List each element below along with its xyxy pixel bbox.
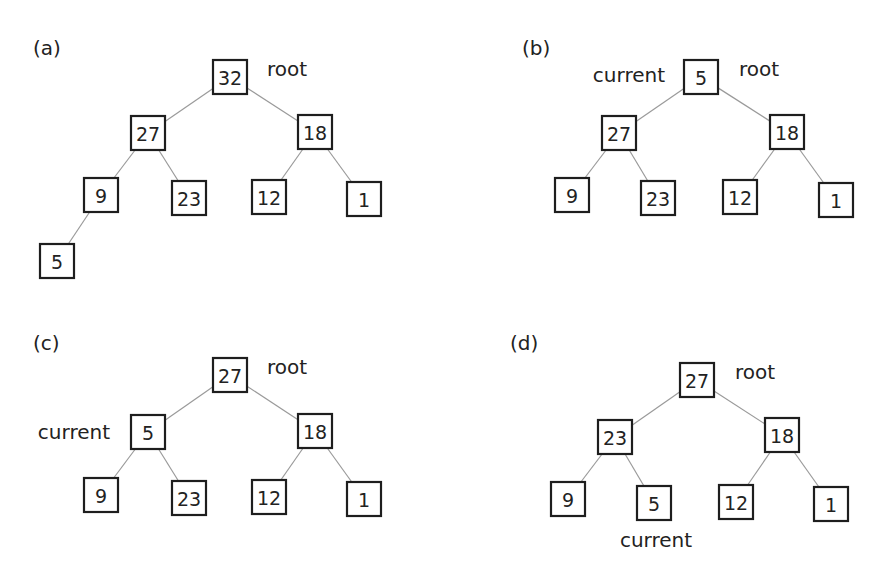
node-value: 12: [724, 492, 748, 514]
tree-node: 23: [172, 481, 206, 515]
root-label: root: [739, 57, 779, 81]
node-value: 18: [303, 421, 327, 443]
node-value: 27: [685, 370, 709, 392]
tree-edge: [327, 149, 351, 182]
node-value: 9: [566, 185, 578, 207]
tree-edge: [281, 448, 303, 480]
node-value: 12: [257, 487, 281, 509]
node-value: 5: [142, 422, 154, 444]
tree-node: 5: [40, 244, 74, 278]
root-label: root: [267, 355, 307, 379]
panel-b: (b)52718923121currentroot: [522, 36, 853, 217]
tree-node: 18: [298, 115, 332, 149]
tree-node: 18: [765, 418, 799, 452]
tree-edge: [629, 150, 648, 181]
panel-c: (c)27518923121rootcurrent: [33, 331, 381, 516]
tree-edge: [114, 150, 135, 178]
tree-node: 1: [347, 482, 381, 516]
node-value: 5: [695, 67, 707, 89]
node-value: 27: [607, 123, 631, 145]
panel-label: (a): [33, 36, 61, 60]
tree-edge: [585, 150, 606, 178]
node-value: 1: [825, 494, 837, 516]
tree-node: 1: [347, 182, 381, 216]
node-value: 27: [218, 365, 242, 387]
panel-label: (c): [33, 331, 60, 355]
tree-edge: [625, 454, 644, 486]
tree-node: 12: [252, 480, 286, 514]
panel-label: (b): [522, 36, 550, 60]
tree-edge: [159, 449, 179, 481]
tree-node: 9: [84, 178, 118, 212]
tree-node: 23: [641, 181, 675, 215]
tree-edge: [68, 212, 89, 244]
tree-node: 27: [602, 116, 636, 150]
tree-node: 1: [819, 183, 853, 217]
node-value: 1: [358, 489, 370, 511]
current-label: current: [593, 63, 665, 87]
node-value: 23: [603, 427, 627, 449]
tree-edge: [752, 149, 774, 180]
tree-edge: [748, 452, 771, 485]
tree-node: 5: [684, 60, 718, 94]
node-value: 1: [358, 189, 370, 211]
tree-node: 18: [298, 414, 332, 448]
tree-node: 9: [555, 178, 589, 212]
tree-node: 5: [637, 486, 671, 520]
tree-node: 27: [131, 116, 165, 150]
node-value: 5: [51, 251, 63, 273]
node-value: 9: [95, 185, 107, 207]
node-value: 12: [728, 187, 752, 209]
tree-edge: [281, 149, 303, 180]
root-label: root: [735, 360, 775, 384]
node-value: 18: [303, 122, 327, 144]
node-value: 18: [775, 122, 799, 144]
tree-edge: [714, 391, 765, 424]
tree-node: 9: [551, 482, 585, 516]
tree-edge: [718, 88, 770, 121]
tree-node: 32: [213, 60, 247, 94]
tree-edge: [632, 392, 680, 425]
tree-edge: [114, 449, 136, 478]
node-value: 9: [95, 485, 107, 507]
tree-edge: [794, 452, 819, 487]
tree-node: 1: [814, 487, 848, 521]
tree-edge: [247, 386, 298, 420]
tree-node: 23: [172, 181, 206, 215]
node-value: 5: [648, 493, 660, 515]
current-label: current: [38, 420, 110, 444]
node-value: 27: [136, 123, 160, 145]
tree-node: 5: [131, 415, 165, 449]
panel-label: (d): [510, 331, 538, 355]
root-label: root: [267, 57, 307, 81]
node-value: 1: [830, 190, 842, 212]
node-value: 23: [177, 488, 201, 510]
tree-node: 12: [723, 180, 757, 214]
tree-edge: [159, 150, 179, 181]
heap-sift-down-diagram: (a)3227189231215root(b)52718923121curren…: [0, 0, 875, 564]
tree-edge: [799, 149, 824, 183]
tree-node: 23: [598, 420, 632, 454]
tree-edge: [165, 89, 213, 122]
node-value: 32: [218, 67, 242, 89]
current-label: current: [620, 528, 692, 552]
tree-edge: [636, 89, 684, 122]
tree-node: 12: [719, 485, 753, 519]
tree-edge: [581, 454, 602, 482]
node-value: 23: [177, 188, 201, 210]
node-value: 18: [770, 425, 794, 447]
tree-node: 9: [84, 478, 118, 512]
panel-d: (d)27231895121rootcurrent: [510, 331, 848, 552]
tree-edge: [247, 88, 298, 121]
tree-node: 27: [680, 363, 714, 397]
node-value: 23: [646, 188, 670, 210]
node-value: 12: [257, 187, 281, 209]
tree-node: 27: [213, 358, 247, 392]
tree-node: 18: [770, 115, 804, 149]
tree-node: 12: [252, 180, 286, 214]
panel-a: (a)3227189231215root: [33, 36, 381, 278]
tree-edge: [327, 448, 352, 482]
tree-edge: [165, 387, 213, 420]
node-value: 9: [562, 489, 574, 511]
